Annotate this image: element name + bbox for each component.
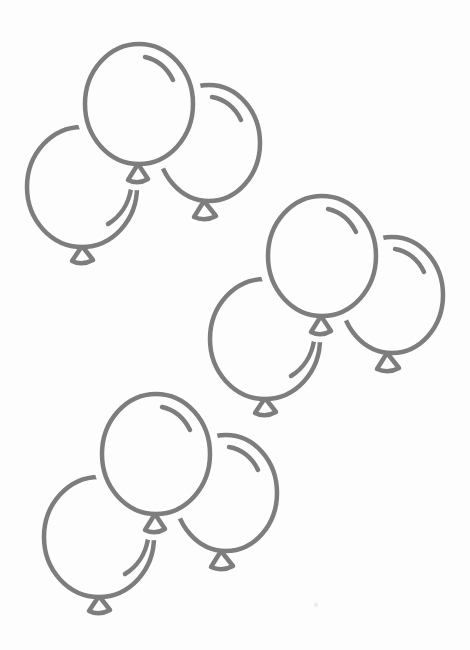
balloon-front-center-body-outline xyxy=(102,394,210,514)
balloon-back-right-knot xyxy=(377,353,399,371)
balloon-back-right-knot xyxy=(194,201,216,219)
balloon-front-center-body-outline xyxy=(268,196,376,316)
balloon-cluster-bottom-left xyxy=(44,394,277,613)
illustration-root xyxy=(27,44,443,613)
balloon-front-center-body-outline xyxy=(85,44,193,164)
balloon-back-right-knot xyxy=(211,551,233,569)
balloon-cluster-top-left xyxy=(27,44,260,263)
balloon-cluster-middle-right xyxy=(210,196,443,415)
coloring-page xyxy=(0,0,470,650)
paper-speck xyxy=(314,603,318,607)
balloons-line-art xyxy=(0,0,470,650)
